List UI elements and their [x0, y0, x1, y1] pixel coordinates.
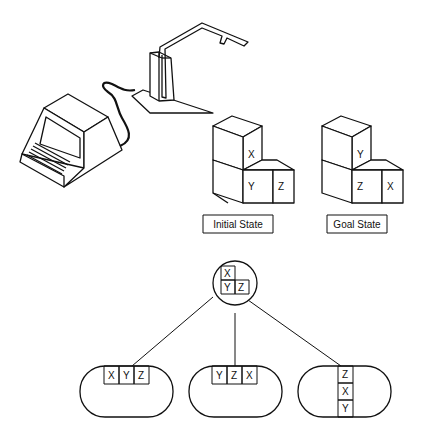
child3-cell-3: Y: [342, 403, 349, 414]
initial-block-bottom-right: Z: [278, 181, 284, 192]
child1-cell-2: Y: [123, 370, 130, 381]
root-cell-top: X: [224, 268, 231, 279]
initial-block-bottom-left: Y: [248, 181, 255, 192]
initial-state-label: Initial State: [213, 219, 263, 230]
root-cell-bottom-left: Y: [224, 282, 231, 293]
child3-cell-2: X: [342, 386, 349, 397]
robot-arm-icon: [132, 23, 248, 113]
blocks-world-diagram: X Y Z Y Z X Initial State Goal State X Y…: [0, 0, 422, 436]
tree-edges: [132, 297, 341, 366]
root-cell-bottom-right: Z: [238, 282, 244, 293]
goal-block-top: Y: [357, 149, 364, 160]
initial-block-top: X: [248, 149, 255, 160]
child3-cell-1: Z: [342, 369, 348, 380]
goal-state-label: Goal State: [333, 219, 381, 230]
child1-cell-1: X: [108, 370, 115, 381]
child1-cell-3: Z: [138, 370, 144, 381]
goal-block-bottom-right: X: [387, 181, 394, 192]
child2-cell-3: X: [246, 370, 253, 381]
goal-block-bottom-left: Z: [357, 181, 363, 192]
computer-terminal-icon: [20, 83, 135, 187]
tree-root-node: [213, 261, 257, 305]
child2-cell-2: Z: [231, 370, 237, 381]
child2-cell-1: Y: [216, 370, 223, 381]
